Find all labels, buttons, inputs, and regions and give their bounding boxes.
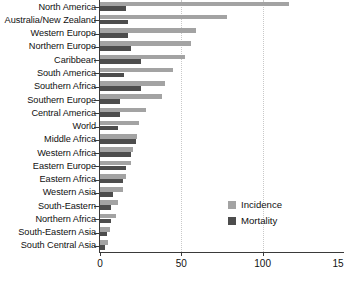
bar-incidence	[100, 15, 227, 20]
bar-mortality	[100, 59, 141, 64]
category-label: South Central Asia	[0, 240, 96, 250]
y-axis-tick	[94, 140, 99, 141]
bar-group	[100, 15, 344, 28]
y-axis-tick	[94, 73, 99, 74]
bar-group	[100, 161, 344, 174]
bar-mortality	[100, 139, 136, 144]
bar-mortality	[100, 192, 113, 197]
bar-mortality	[100, 20, 128, 25]
bar-group	[100, 28, 344, 41]
category-label: Caribbean	[0, 55, 96, 65]
category-label: Middle Africa	[0, 134, 96, 144]
bar-group	[100, 214, 344, 227]
y-axis-tick	[94, 153, 99, 154]
category-label: South America	[0, 68, 96, 78]
legend-label: Incidence	[241, 199, 282, 210]
category-label: Western Asia	[0, 187, 96, 197]
bar-group	[100, 147, 344, 160]
category-label: North America	[0, 2, 96, 12]
x-axis-tick-label: 0	[97, 258, 103, 270]
bar-mortality	[100, 126, 118, 131]
y-axis-tick	[94, 7, 99, 8]
category-label: Central America	[0, 108, 96, 118]
category-label: Australia/New Zealand	[0, 15, 96, 25]
y-axis-tick	[94, 60, 99, 61]
bar-mortality	[100, 6, 126, 11]
bar-incidence	[100, 200, 118, 205]
y-axis-tick	[94, 193, 99, 194]
bar-mortality	[100, 46, 131, 51]
bar-mortality	[100, 179, 123, 184]
category-label: Western Europe	[0, 28, 96, 38]
category-label: South-Eastern	[0, 201, 96, 211]
bar-incidence	[100, 147, 133, 152]
y-axis-tick	[94, 34, 99, 35]
bar-mortality	[100, 245, 105, 250]
bar-group	[100, 121, 344, 134]
bar-mortality	[100, 112, 120, 117]
bar-incidence	[100, 2, 289, 7]
category-label: Southern Europe	[0, 95, 96, 105]
bar-mortality	[100, 205, 111, 210]
bar-group	[100, 134, 344, 147]
bar-incidence	[100, 81, 165, 86]
plot-area	[100, 0, 344, 252]
bar-group	[100, 55, 344, 68]
y-axis-tick	[94, 246, 99, 247]
category-label: Eastern Europe	[0, 161, 96, 171]
bar-group	[100, 41, 344, 54]
bar-group	[100, 227, 344, 240]
y-axis-tick	[94, 20, 99, 21]
bar-incidence	[100, 214, 116, 219]
bar-incidence	[100, 240, 108, 245]
category-label: Northern Africa	[0, 214, 96, 224]
y-axis-tick	[94, 166, 99, 167]
category-label: Eastern Africa	[0, 174, 96, 184]
y-axis-tick	[94, 47, 99, 48]
bar-incidence	[100, 94, 162, 99]
y-axis-tick	[94, 100, 99, 101]
y-axis-tick	[94, 206, 99, 207]
x-axis-tick-label: 50	[176, 258, 187, 270]
y-axis-tick	[94, 219, 99, 220]
y-axis-tick	[94, 127, 99, 128]
legend-label: Mortality	[241, 215, 277, 226]
y-axis-tick	[94, 180, 99, 181]
x-axis-line	[99, 252, 344, 253]
x-axis-tick-label: 15	[332, 258, 343, 270]
bar-group	[100, 108, 344, 121]
x-axis-tick-50	[181, 252, 182, 256]
bar-incidence	[100, 121, 139, 126]
bar-mortality	[100, 33, 128, 38]
x-axis-tick-100	[263, 252, 264, 256]
bar-mortality	[100, 219, 111, 224]
bar-group	[100, 94, 344, 107]
y-axis-category-labels: North AmericaAustralia/New ZealandWester…	[0, 0, 96, 252]
bar-incidence	[100, 134, 137, 139]
x-axis-tick-label: 100	[254, 258, 271, 270]
bar-incidence	[100, 108, 146, 113]
bar-incidence	[100, 187, 123, 192]
x-axis-tick-0	[100, 252, 101, 256]
bar-group	[100, 174, 344, 187]
legend-item: Mortality	[228, 214, 282, 227]
category-label: World	[0, 121, 96, 131]
bar-incidence	[100, 227, 110, 232]
bar-chart: North AmericaAustralia/New ZealandWester…	[0, 0, 344, 287]
bar-group	[100, 187, 344, 200]
chart-legend: IncidenceMortality	[228, 198, 282, 230]
bar-mortality	[100, 166, 126, 171]
legend-swatch-icon	[228, 217, 236, 225]
bar-incidence	[100, 68, 173, 73]
bar-group	[100, 81, 344, 94]
bar-incidence	[100, 174, 126, 179]
bar-mortality	[100, 232, 107, 237]
legend-swatch-icon	[228, 201, 236, 209]
category-label: Southern Africa	[0, 81, 96, 91]
bar-mortality	[100, 86, 141, 91]
bar-group	[100, 2, 344, 15]
category-label: Western Africa	[0, 148, 96, 158]
legend-item: Incidence	[228, 198, 282, 211]
category-label: Northern Europe	[0, 41, 96, 51]
y-axis-line	[99, 0, 100, 252]
